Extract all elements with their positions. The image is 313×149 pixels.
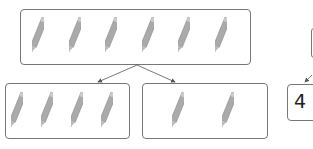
- pencil-icon: [41, 90, 53, 130]
- pencil-icon: [101, 90, 113, 130]
- pencil-icon: [11, 90, 23, 130]
- number-bond-part-value: 4: [294, 90, 306, 112]
- part-left-pencils: [11, 90, 113, 130]
- pencil-icon: [222, 90, 234, 130]
- pencil-icon: [71, 90, 83, 130]
- part-right-pencils: [172, 90, 234, 130]
- number-bond-whole-partial: [311, 28, 313, 58]
- pencil-icon: [172, 90, 184, 130]
